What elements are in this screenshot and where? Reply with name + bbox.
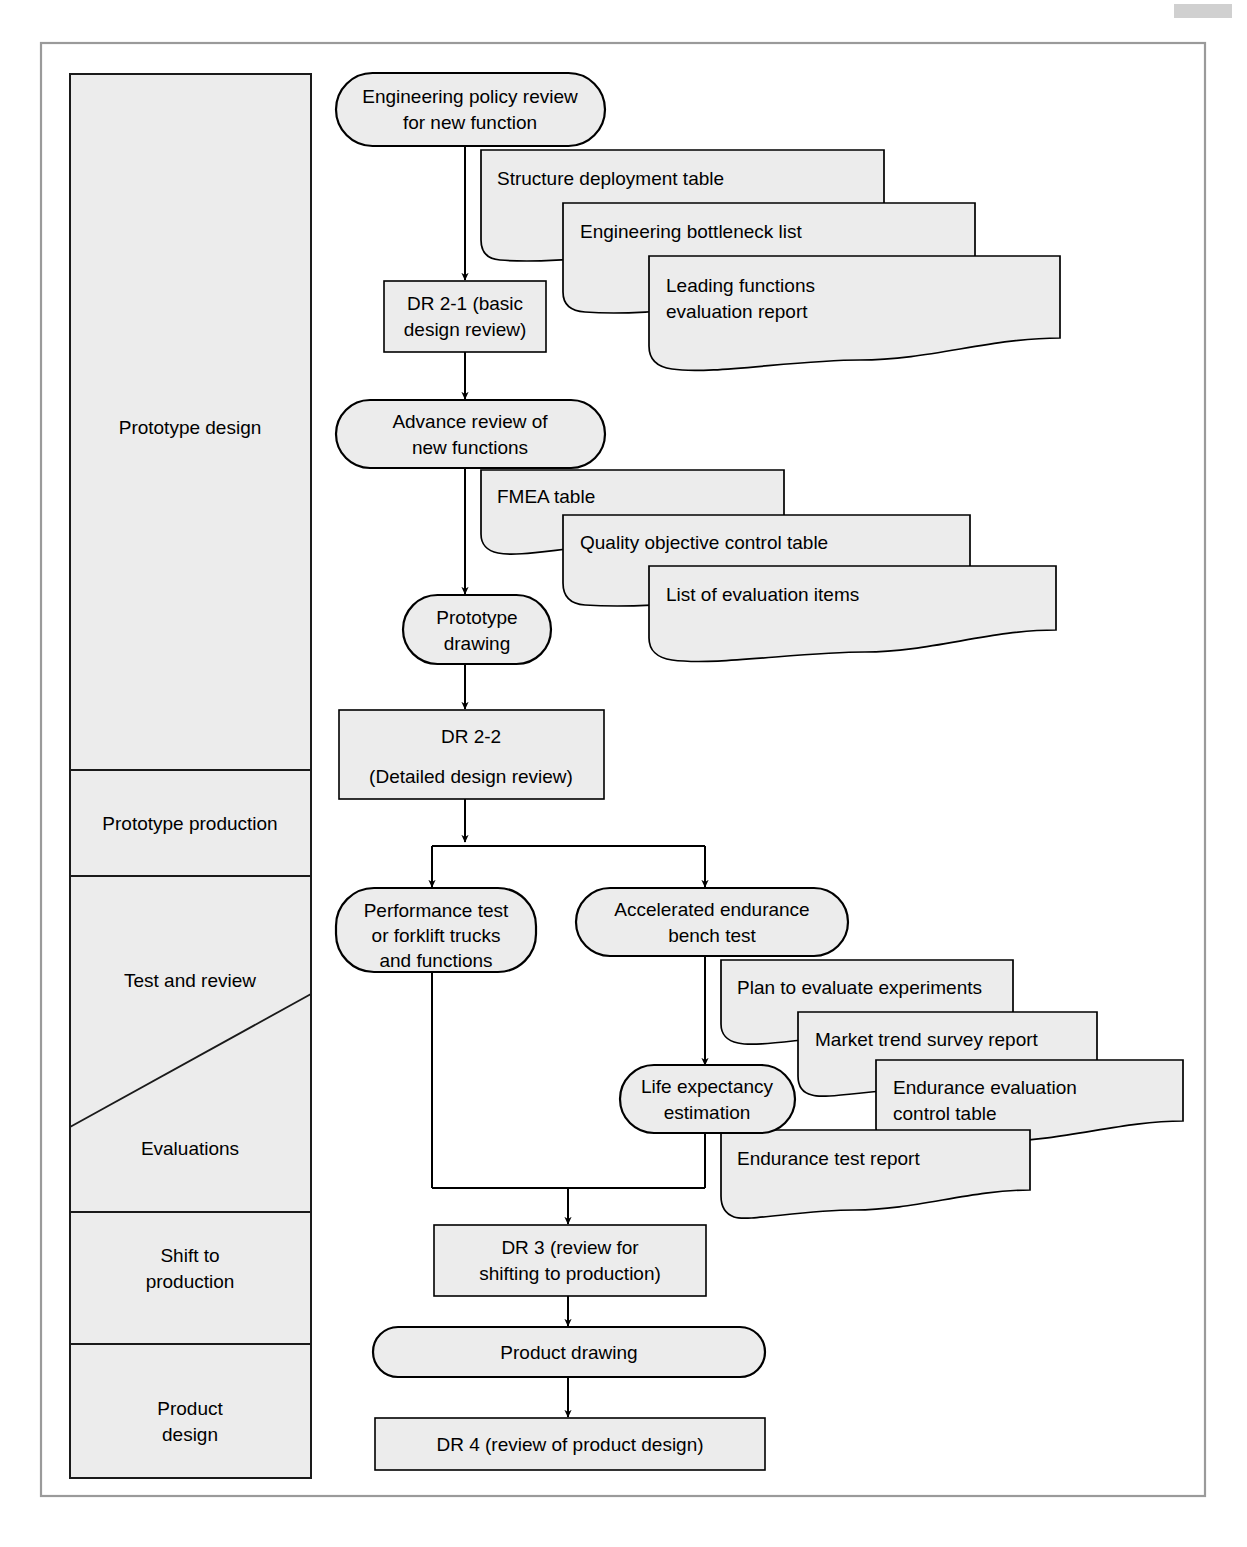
node-engineering-policy-review[interactable]: Engineering policy review for new functi… [336, 73, 605, 146]
doc-label-endurance-evaluation-line1: Endurance evaluation [893, 1077, 1077, 1098]
doc-label-endurance-test-report: Endurance test report [737, 1148, 920, 1169]
node-label-dr-4: DR 4 (review of product design) [436, 1434, 703, 1455]
document-group-accelerated-endurance: Plan to evaluate experiments Market tren… [721, 960, 1183, 1148]
document-group-policy-review: Structure deployment table Engineering b… [481, 150, 1060, 370]
node-label-dr-2-2-line1: DR 2-2 [441, 726, 501, 747]
node-dr-2-1[interactable]: DR 2-1 (basic design review) [384, 281, 546, 352]
scan-artifact [1174, 4, 1232, 18]
node-performance-test[interactable]: Performance test or forklift trucks and … [336, 888, 536, 972]
doc-label-quality-objective-control-table: Quality objective control table [580, 532, 828, 553]
node-prototype-drawing[interactable]: Prototype drawing [403, 595, 551, 664]
lane-label-product-design-line2: design [162, 1424, 218, 1445]
lane-label-shift-to-production-line2: production [146, 1271, 235, 1292]
lane-label-product-design-line1: Product [157, 1398, 223, 1419]
node-label-engineering-policy-review-line1: Engineering policy review [362, 86, 578, 107]
node-label-prototype-drawing-line1: Prototype [436, 607, 517, 628]
node-label-prototype-drawing-line2: drawing [444, 633, 511, 654]
doc-label-market-trend-survey-report: Market trend survey report [815, 1029, 1039, 1050]
node-label-dr-2-2-line2: (Detailed design review) [369, 766, 573, 787]
node-label-performance-test-line3: and functions [379, 950, 492, 971]
node-label-engineering-policy-review-line2: for new function [403, 112, 537, 133]
doc-label-endurance-evaluation-line2: control table [893, 1103, 997, 1124]
node-label-life-expectancy-line2: estimation [664, 1102, 751, 1123]
doc-shape-list-of-evaluation-items [649, 566, 1056, 661]
node-label-dr-2-1-line2: design review) [404, 319, 527, 340]
doc-label-leading-functions-line1: Leading functions [666, 275, 815, 296]
node-label-dr-3-line1: DR 3 (review for [501, 1237, 639, 1258]
flowchart-svg: Prototype design Prototype production Te… [0, 0, 1247, 1547]
doc-label-list-of-evaluation-items: List of evaluation items [666, 584, 859, 605]
doc-label-fmea-table: FMEA table [497, 486, 595, 507]
doc-label-plan-to-evaluate-experiments: Plan to evaluate experiments [737, 977, 982, 998]
node-label-performance-test-line2: or forklift trucks [372, 925, 501, 946]
node-label-product-drawing: Product drawing [500, 1342, 637, 1363]
lane-label-test-and-review: Test and review [124, 970, 256, 991]
node-dr-3[interactable]: DR 3 (review for shifting to production) [434, 1225, 706, 1296]
lane-label-prototype-production: Prototype production [102, 813, 277, 834]
node-label-performance-test-line1: Performance test [364, 900, 509, 921]
node-accelerated-endurance-bench-test[interactable]: Accelerated endurance bench test [576, 888, 848, 956]
node-life-expectancy-estimation[interactable]: Life expectancy estimation [620, 1065, 795, 1133]
lane-column-box [70, 74, 311, 1478]
lane-label-prototype-design: Prototype design [119, 417, 262, 438]
node-label-accelerated-line1: Accelerated endurance [614, 899, 809, 920]
doc-label-leading-functions-line2: evaluation report [666, 301, 808, 322]
document-group-advance-review: FMEA table Quality objective control tab… [481, 470, 1056, 661]
node-shape-dr-2-1 [384, 281, 546, 352]
doc-label-structure-deployment-table: Structure deployment table [497, 168, 724, 189]
node-shape-dr-3 [434, 1225, 706, 1296]
document-group-life-expectancy: Endurance test report [721, 1130, 1030, 1218]
node-dr-4[interactable]: DR 4 (review of product design) [375, 1418, 765, 1470]
node-advance-review[interactable]: Advance review of new functions [336, 400, 605, 468]
node-label-dr-2-1-line1: DR 2-1 (basic [407, 293, 523, 314]
node-product-drawing[interactable]: Product drawing [373, 1327, 765, 1377]
node-label-life-expectancy-line1: Life expectancy [641, 1076, 774, 1097]
node-label-dr-3-line2: shifting to production) [479, 1263, 661, 1284]
node-label-accelerated-line2: bench test [668, 925, 756, 946]
doc-shape-endurance-test-report [721, 1130, 1030, 1218]
lane-column: Prototype design Prototype production Te… [70, 74, 311, 1478]
lane-label-shift-to-production-line1: Shift to [160, 1245, 219, 1266]
node-shape-engineering-policy-review [336, 73, 605, 146]
node-label-advance-review-line2: new functions [412, 437, 528, 458]
doc-label-engineering-bottleneck-list: Engineering bottleneck list [580, 221, 803, 242]
lane-label-evaluations: Evaluations [141, 1138, 239, 1159]
diagram-page: Prototype design Prototype production Te… [0, 0, 1247, 1547]
node-dr-2-2[interactable]: DR 2-2 (Detailed design review) [339, 710, 604, 799]
node-label-advance-review-line1: Advance review of [392, 411, 548, 432]
